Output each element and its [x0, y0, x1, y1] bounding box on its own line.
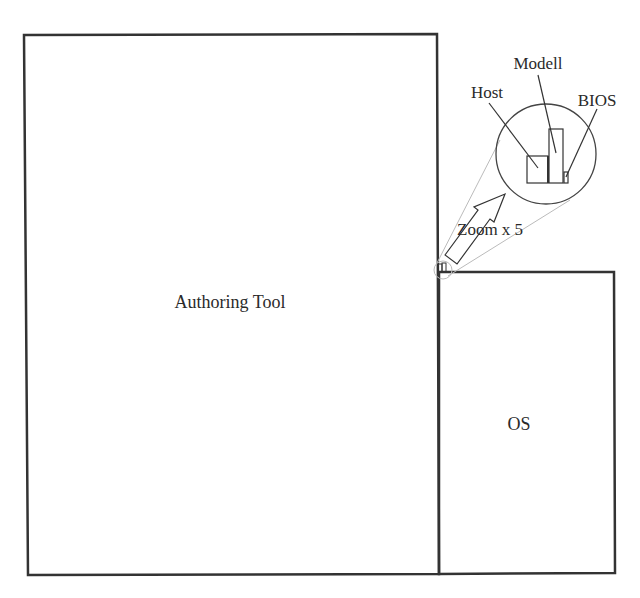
modell-rect: [549, 129, 563, 183]
modell-label: Modell: [513, 54, 562, 73]
bios-label: BIOS: [578, 91, 617, 110]
host-rect: [527, 156, 548, 183]
host-label: Host: [471, 83, 503, 102]
authoring-tool-label: Authoring Tool: [175, 292, 286, 312]
os-label: OS: [507, 414, 530, 434]
diagram-canvas: Authoring Tool OS Zoom x 5 Host Modell B…: [0, 0, 640, 598]
zoom-factor-label: Zoom x 5: [457, 220, 523, 239]
